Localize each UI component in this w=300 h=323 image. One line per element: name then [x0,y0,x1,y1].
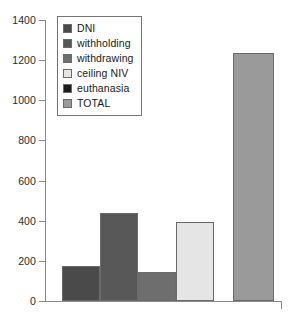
legend-swatch-icon [63,69,72,78]
legend-item-total: TOTAL [63,96,134,111]
legend-item-label: withdrawing [77,53,134,64]
legend-item-euthanasia: euthanasia [63,81,134,96]
bar-ceiling-niv [176,222,214,301]
legend-rows: DNIwithholdingwithdrawingceiling NIVeuth… [63,21,134,111]
legend-item-label: TOTAL [77,98,110,109]
legend-swatch-icon [63,84,72,93]
legend-swatch-icon [63,39,72,48]
bar-withdrawing [138,272,176,301]
legend-item-ceiling-niv: ceiling NIV [63,66,134,81]
legend-item-dni: DNI [63,21,134,36]
bars-layer [0,0,300,323]
bar-withholding [100,213,138,301]
bar-dni [62,266,100,301]
bar-total [233,53,274,301]
legend-swatch-icon [63,24,72,33]
bar-chart: 0200400600800100012001400 DNIwithholding… [0,0,300,323]
legend-item-label: DNI [77,23,95,34]
legend-swatch-icon [63,99,72,108]
chart-legend: DNIwithholdingwithdrawingceiling NIVeuth… [57,16,142,116]
legend-item-label: ceiling NIV [77,68,128,79]
legend-item-withdrawing: withdrawing [63,51,134,66]
legend-item-label: withholding [77,38,131,49]
legend-swatch-icon [63,54,72,63]
legend-item-label: euthanasia [77,83,129,94]
legend-item-withholding: withholding [63,36,134,51]
